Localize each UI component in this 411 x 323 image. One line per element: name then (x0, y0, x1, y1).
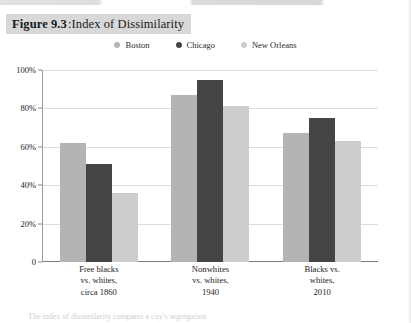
x-label-blacks-2010: Blacks vs. whites, 2010 (270, 264, 374, 298)
y-axis: 100% 80% 60% 40% 20% 0 (0, 60, 42, 262)
x-label-line: Blacks vs. (270, 264, 374, 275)
x-label-line: 2010 (270, 287, 374, 298)
legend-label-chicago: Chicago (187, 40, 215, 50)
y-tick-label-0: 0 (32, 257, 36, 267)
bar-boston-1940 (171, 95, 197, 262)
bar-chicago-1860 (86, 164, 112, 262)
legend-item-boston: Boston (114, 40, 149, 50)
x-label-line: 1940 (158, 287, 262, 298)
circle-dot-icon (114, 42, 120, 48)
figure-number: Figure 9.3 (12, 17, 67, 32)
x-axis-labels: Free blacks vs. whites, circa 1860 Nonwh… (43, 264, 378, 298)
y-tick-label-40: 40% (20, 180, 36, 190)
bar-new-orleans-1860 (112, 193, 138, 262)
figure-caption-partial: The index of dissimilarity compares a ci… (28, 312, 398, 321)
circle-dot-icon (241, 42, 247, 48)
bars-container (43, 70, 378, 262)
legend-label-boston: Boston (125, 40, 149, 50)
bar-group-blacks-2010 (283, 70, 361, 262)
x-label-line: Nonwhites (158, 264, 262, 275)
chart-plot-area: 100% 80% 60% 40% 20% 0 (0, 60, 411, 270)
bar-boston-1860 (60, 143, 86, 262)
chart-legend: Boston Chicago New Orleans (0, 40, 411, 50)
scan-artifact-band (0, 0, 411, 5)
bar-new-orleans-2010 (335, 141, 361, 262)
bar-boston-2010 (283, 133, 309, 262)
bar-chicago-2010 (309, 118, 335, 262)
legend-label-new-orleans: New Orleans (252, 40, 297, 50)
x-label-line: circa 1860 (47, 287, 151, 298)
x-label-line: vs. whites, (158, 275, 262, 286)
bar-group-nonwhites-1940 (171, 70, 249, 262)
y-tick-label-60: 60% (20, 142, 36, 152)
bar-chicago-1940 (197, 80, 223, 262)
bar-group-free-blacks-1860 (60, 70, 138, 262)
x-label-line: whites, (270, 275, 374, 286)
x-label-free-blacks-1860: Free blacks vs. whites, circa 1860 (47, 264, 151, 298)
x-label-nonwhites-1940: Nonwhites vs. whites, 1940 (158, 264, 262, 298)
x-label-line: vs. whites, (47, 275, 151, 286)
x-label-line: Free blacks (47, 264, 151, 275)
figure-title: Figure 9.3: Index of Dissimilarity (6, 14, 191, 34)
y-tick-label-20: 20% (20, 219, 36, 229)
bar-new-orleans-1940 (223, 106, 249, 262)
legend-item-new-orleans: New Orleans (241, 40, 297, 50)
y-tick-label-100: 100% (16, 65, 36, 75)
legend-item-chicago: Chicago (176, 40, 215, 50)
y-tick-label-80: 80% (20, 103, 36, 113)
figure-title-text: Index of Dissimilarity (72, 17, 185, 32)
circle-dot-icon (176, 42, 182, 48)
